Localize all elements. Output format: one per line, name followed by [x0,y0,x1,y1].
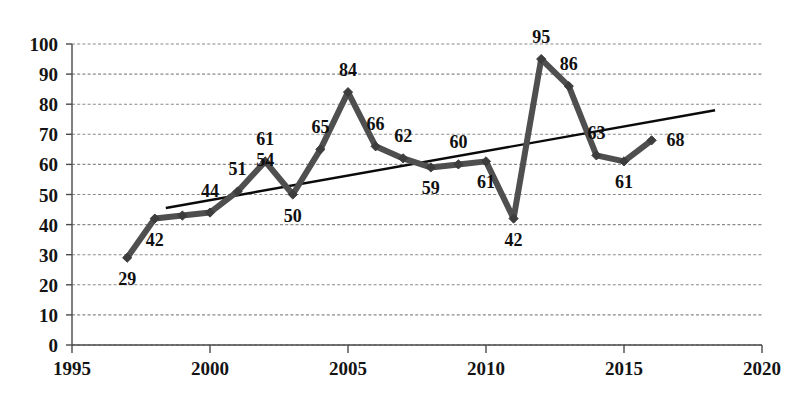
x-axis-tick-label: 2005 [329,358,367,379]
data-point-label: 62 [394,126,412,146]
data-point-label: 61 [615,172,633,192]
data-point-label: 44 [201,181,219,201]
x-axis-tick-label: 2020 [743,358,781,379]
data-point-label: 61 [256,129,274,149]
data-point-label: 42 [146,230,164,250]
x-axis-tick-label: 2015 [605,358,643,379]
y-axis-tick-label: 50 [39,185,58,206]
data-point-label: 63 [587,123,605,143]
x-axis-tick-label: 1995 [53,358,91,379]
data-point-label: 86 [560,54,578,74]
x-axis-tick-label: 2000 [191,358,229,379]
data-point-label: 61 [477,172,495,192]
line-chart: 0102030405060708090100 19952000200520102… [0,0,812,402]
y-axis-tick-label: 80 [39,94,58,115]
data-point-label: 54 [256,150,274,170]
y-axis-tick-label: 90 [39,64,58,85]
data-point-label: 60 [449,132,467,152]
y-axis-tick-label: 70 [39,124,58,145]
x-axis-tick-label: 2010 [467,358,505,379]
y-axis-tick-label: 100 [30,34,59,55]
y-axis-tick-label: 20 [39,275,58,296]
data-point-label: 50 [284,206,302,226]
data-point-label: 66 [367,114,385,134]
data-point-label: 95 [532,27,550,47]
data-point-label: 29 [118,269,136,289]
data-point-label: 84 [339,60,357,80]
y-axis-tick-label: 60 [39,154,58,175]
chart-canvas: 0102030405060708090100 19952000200520102… [0,0,812,402]
data-point-label: 51 [229,159,247,179]
data-point-label: 65 [311,117,329,137]
data-point-label: 42 [505,230,523,250]
data-point-label: 68 [667,130,685,150]
y-axis-tick-label: 10 [39,305,58,326]
chart-background [0,0,812,402]
data-point-label: 59 [422,178,440,198]
y-axis-tick-label: 30 [39,245,58,266]
y-axis-tick-label: 0 [49,335,59,356]
y-axis-tick-label: 40 [39,215,58,236]
